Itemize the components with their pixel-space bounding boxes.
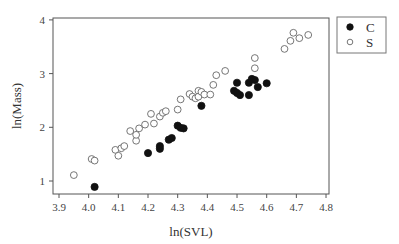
x-tick-label: 3.9 <box>52 201 66 213</box>
x-tick-label: 4.1 <box>111 201 125 213</box>
point-s <box>281 45 288 52</box>
legend-label: C <box>366 20 375 35</box>
point-s <box>290 29 297 36</box>
y-tick-label: 3 <box>40 68 46 80</box>
point-c <box>168 134 175 141</box>
point-c <box>263 80 270 87</box>
point-s <box>305 32 312 39</box>
point-c <box>233 79 240 86</box>
y-axis-label: ln(Mass) <box>9 83 24 129</box>
point-c <box>180 125 187 132</box>
point-s <box>287 37 294 44</box>
x-tick-label: 4.3 <box>171 201 185 213</box>
x-tick-label: 4.0 <box>82 201 96 213</box>
plot-frame <box>53 18 329 194</box>
x-tick-label: 4.8 <box>319 201 333 213</box>
point-s <box>251 65 258 72</box>
point-c <box>236 91 243 98</box>
x-axis: 3.94.04.14.24.34.44.54.64.74.8 <box>52 194 333 213</box>
point-s <box>251 55 258 62</box>
point-s <box>210 81 217 88</box>
point-s <box>213 72 220 79</box>
point-s <box>207 91 214 98</box>
x-tick-label: 4.5 <box>230 201 244 213</box>
point-s <box>91 157 98 164</box>
point-c <box>245 91 252 98</box>
point-c <box>91 183 98 190</box>
y-tick-label: 4 <box>40 14 46 26</box>
legend-label: S <box>366 35 373 50</box>
point-s <box>133 131 140 138</box>
x-tick-label: 4.6 <box>260 201 274 213</box>
point-s <box>296 35 303 42</box>
point-c <box>144 149 151 156</box>
point-s <box>148 110 155 117</box>
point-c <box>156 145 163 152</box>
x-tick-label: 4.4 <box>200 201 214 213</box>
point-c <box>198 102 205 109</box>
y-tick-label: 1 <box>40 175 46 187</box>
point-c <box>251 76 258 83</box>
legend: CS <box>337 17 386 53</box>
point-s <box>222 68 229 75</box>
point-s <box>115 152 122 159</box>
scatter-chart: 3.94.04.14.24.34.44.54.64.74.8 1234 ln(S… <box>0 0 399 244</box>
x-axis-label: ln(SVL) <box>169 224 212 239</box>
point-s <box>162 108 169 115</box>
x-tick-label: 4.7 <box>289 201 303 213</box>
legend-filled-circle-icon <box>347 24 353 30</box>
point-s <box>70 172 77 179</box>
point-c <box>254 83 261 90</box>
point-s <box>142 121 149 128</box>
y-tick-label: 2 <box>40 121 46 133</box>
point-s <box>174 106 181 113</box>
point-s <box>121 143 128 150</box>
point-s <box>177 96 184 103</box>
y-axis: 1234 <box>40 14 54 187</box>
point-s <box>151 120 158 127</box>
x-tick-label: 4.2 <box>141 201 155 213</box>
legend-open-circle-icon <box>347 39 353 45</box>
